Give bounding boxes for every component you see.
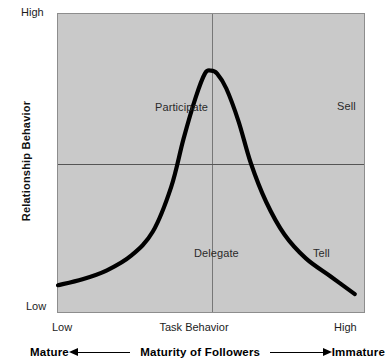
leadership-curve-svg bbox=[58, 14, 364, 312]
maturity-label-immature: Immature bbox=[332, 346, 385, 358]
arrow-shaft bbox=[75, 352, 130, 353]
chart-plot-area: Participate Sell Delegate Tell bbox=[57, 13, 365, 313]
maturity-label-mature: Mature bbox=[30, 346, 69, 358]
maturity-axis-title: Maturity of Followers bbox=[136, 346, 264, 358]
x-axis-tick-high: High bbox=[334, 321, 357, 333]
y-axis-title: Relationship Behavior bbox=[20, 91, 32, 231]
y-axis-tick-high: High bbox=[21, 6, 44, 18]
quadrant-label-delegate: Delegate bbox=[194, 247, 239, 259]
quadrant-label-participate: Participate bbox=[155, 101, 208, 113]
situational-leadership-diagram: Participate Sell Delegate Tell High Low … bbox=[0, 0, 388, 364]
maturity-arrow-right bbox=[264, 346, 331, 358]
maturity-continuum: Mature Maturity of Followers Immature bbox=[0, 343, 388, 361]
maturity-arrow-left bbox=[69, 346, 136, 358]
arrow-shaft bbox=[270, 352, 325, 353]
arrow-head-left-icon bbox=[69, 348, 78, 356]
x-axis-title: Task Behavior bbox=[0, 321, 388, 333]
y-axis-tick-low: Low bbox=[26, 300, 46, 312]
quadrant-label-sell: Sell bbox=[337, 100, 356, 112]
arrow-head-right-icon bbox=[323, 348, 332, 356]
quadrant-label-tell: Tell bbox=[313, 247, 330, 259]
